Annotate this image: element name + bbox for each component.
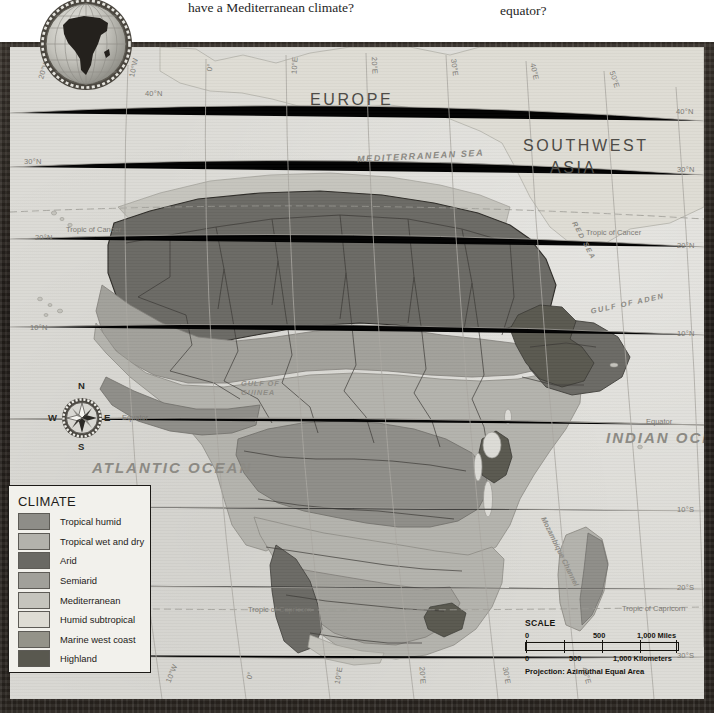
legend-item: Tropical humid xyxy=(9,512,150,532)
legend-label: Semiarid xyxy=(60,575,97,586)
legend-swatch xyxy=(18,631,50,648)
legend-item: Semiarid xyxy=(9,571,150,591)
scale-title: SCALE xyxy=(525,618,697,628)
legend-label: Tropical wet and dry xyxy=(60,536,144,547)
legend-label: Arid xyxy=(60,555,77,566)
legend-label: Marine west coast xyxy=(60,634,136,645)
scale-km-numbers: 0 500 1,000 Kilometers xyxy=(525,654,697,663)
legend-label: Mediterranean xyxy=(60,595,120,606)
legend-swatch xyxy=(18,592,50,609)
legend-swatch xyxy=(18,513,50,530)
legend-item: Arid xyxy=(9,551,150,571)
africa-globe-emblem xyxy=(28,0,144,94)
scale-km-0: 0 xyxy=(525,654,529,663)
compass-label-west: W xyxy=(48,412,57,423)
map-scale: SCALE 0 500 1,000 Miles 0 500 1,000 Kilo… xyxy=(525,618,697,676)
legend-swatch xyxy=(18,533,50,550)
legend-swatch xyxy=(18,650,50,667)
legend-title: CLIMATE xyxy=(9,486,150,512)
compass-label-east: E xyxy=(104,412,110,423)
legend-swatch xyxy=(18,611,50,628)
scale-miles-500: 500 xyxy=(593,631,605,640)
scale-miles-numbers: 0 500 1,000 Miles xyxy=(525,631,697,640)
legend-rows: Tropical humidTropical wet and dryAridSe… xyxy=(9,512,150,669)
compass-label-south: S xyxy=(78,441,84,452)
legend-item: Mediterranean xyxy=(9,590,150,610)
scale-miles-1000: 1,000 Miles xyxy=(637,631,676,640)
scale-miles-0: 0 xyxy=(525,631,529,640)
legend-swatch xyxy=(18,572,50,589)
scale-projection: Projection: Azimuthal Equal Area xyxy=(525,667,697,676)
scale-km-1000: 1,000 Kilometers xyxy=(613,654,672,663)
legend-label: Humid subtropical xyxy=(60,614,135,625)
legend-label: Highland xyxy=(60,653,97,664)
legend-item: Tropical wet and dry xyxy=(9,532,150,552)
legend-swatch xyxy=(18,552,50,569)
header-question-left: have a Mediterranean climate? xyxy=(188,0,354,16)
scale-km-500: 500 xyxy=(569,654,581,663)
climate-legend: CLIMATE Tropical humidTropical wet and d… xyxy=(8,485,151,673)
legend-item: Humid subtropical xyxy=(9,610,150,630)
header-question-right: equator? xyxy=(500,3,546,19)
legend-item: Highland xyxy=(9,649,150,669)
scale-bar xyxy=(525,642,679,651)
map-page: have a Mediterranean climate? equator? xyxy=(0,0,714,713)
legend-item: Marine west coast xyxy=(9,630,150,650)
compass-label-north: N xyxy=(78,380,85,391)
legend-label: Tropical humid xyxy=(60,516,121,527)
compass-rose: N E S W xyxy=(48,378,116,454)
